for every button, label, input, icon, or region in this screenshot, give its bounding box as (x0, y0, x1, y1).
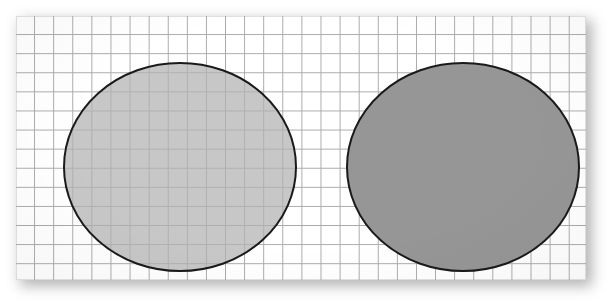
shapes-svg (16, 16, 586, 280)
left-ellipse[interactable] (64, 63, 296, 271)
graph-paper-sheet (16, 16, 586, 280)
right-ellipse[interactable] (347, 63, 579, 271)
shape-layer (16, 16, 586, 280)
figure-canvas (0, 0, 612, 302)
